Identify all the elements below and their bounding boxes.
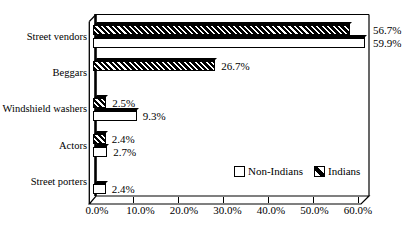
legend-item-non-indians: Non-Indians bbox=[234, 165, 303, 178]
bar-non-indians bbox=[93, 38, 365, 48]
legend-label-indians: Indians bbox=[328, 165, 360, 178]
x-tick-mark bbox=[178, 197, 179, 203]
x-tick-label: 50.0% bbox=[292, 204, 338, 217]
category-label: Street porters bbox=[0, 175, 87, 188]
legend-swatch-non-indians bbox=[234, 166, 245, 177]
bar-non-indians bbox=[93, 184, 106, 194]
legend-label-non-indians: Non-Indians bbox=[248, 165, 303, 178]
x-tick-label: 40.0% bbox=[248, 204, 294, 217]
bar-indians bbox=[93, 25, 350, 35]
data-label: 9.3% bbox=[143, 109, 166, 123]
data-label: 2.4% bbox=[112, 182, 135, 196]
x-tick-label: 10.0% bbox=[118, 204, 164, 217]
x-tick-mark bbox=[268, 197, 269, 203]
data-label: 2.7% bbox=[113, 145, 136, 159]
x-tick-label: 60.0% bbox=[335, 204, 381, 217]
data-label: 59.9% bbox=[373, 36, 401, 50]
data-label: 2.5% bbox=[112, 96, 135, 110]
data-label: 2.4% bbox=[112, 132, 135, 146]
x-tick-mark bbox=[223, 197, 224, 203]
x-tick-label: 0.0% bbox=[74, 204, 120, 217]
bar-chart: Street vendors56.7%59.9%Beggars26.7%Wind… bbox=[0, 0, 410, 234]
x-tick-mark bbox=[358, 197, 359, 203]
data-label: 26.7% bbox=[221, 59, 249, 73]
floor-plane bbox=[89, 196, 369, 204]
legend: Non-Indians Indians bbox=[234, 165, 360, 178]
bar-non-indians bbox=[93, 111, 137, 121]
category-label: Windshield washers bbox=[0, 102, 87, 115]
category-label: Actors bbox=[0, 139, 87, 152]
bar-indians bbox=[93, 61, 215, 71]
bar-indians bbox=[93, 98, 106, 108]
category-label: Street vendors bbox=[0, 30, 87, 43]
x-tick-mark bbox=[133, 197, 134, 203]
x-tick-label: 20.0% bbox=[161, 204, 207, 217]
x-tick-mark bbox=[313, 197, 314, 203]
bar-indians bbox=[93, 134, 106, 144]
bar-non-indians bbox=[93, 147, 107, 157]
category-label: Beggars bbox=[0, 66, 87, 79]
x-tick-label: 30.0% bbox=[205, 204, 251, 217]
legend-item-indians: Indians bbox=[314, 165, 360, 178]
data-label: 56.7% bbox=[373, 23, 401, 37]
legend-swatch-indians bbox=[314, 166, 325, 177]
